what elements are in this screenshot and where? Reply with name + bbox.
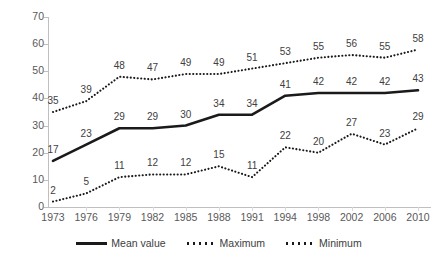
data-label: 29 (106, 111, 132, 122)
y-axis-tick-label: 50 (16, 65, 44, 76)
solid-line-swatch-icon (76, 242, 107, 245)
legend-label: Minimum (319, 237, 362, 249)
data-label: 48 (106, 60, 132, 71)
data-label: 41 (272, 79, 298, 90)
data-label: 23 (372, 128, 398, 139)
data-label: 11 (106, 160, 132, 171)
data-label: 56 (339, 38, 365, 49)
data-label: 22 (272, 130, 298, 141)
data-label: 17 (40, 144, 66, 155)
data-label: 29 (405, 111, 431, 122)
data-label: 11 (239, 160, 265, 171)
x-axis-line (48, 207, 431, 208)
data-label: 34 (206, 98, 232, 109)
data-label: 34 (239, 98, 265, 109)
y-axis-tick (44, 207, 48, 208)
data-label: 55 (372, 41, 398, 52)
data-label: 49 (206, 57, 232, 68)
line-chart: 010203040506070 197319761979198219851988… (0, 0, 438, 261)
data-label: 42 (372, 76, 398, 87)
dotted-line-swatch-icon (185, 242, 216, 245)
legend-entry-minimum[interactable]: Minimum (284, 237, 362, 249)
y-axis-tick-label: 60 (16, 38, 44, 49)
data-label: 47 (140, 62, 166, 73)
data-label: 42 (305, 76, 331, 87)
legend-label: Mean value (111, 237, 165, 249)
legend-entry-mean-value[interactable]: Mean value (76, 237, 165, 249)
data-label: 5 (73, 176, 99, 187)
chart-legend: Mean valueMaximumMinimum (0, 233, 438, 253)
data-label: 53 (272, 46, 298, 57)
data-label: 39 (73, 84, 99, 95)
legend-entry-maximum[interactable]: Maximum (185, 237, 266, 249)
data-label: 27 (339, 117, 365, 128)
data-label: 29 (140, 111, 166, 122)
data-label: 12 (140, 157, 166, 168)
data-label: 42 (339, 76, 365, 87)
data-label: 20 (305, 136, 331, 147)
data-label: 35 (40, 95, 66, 106)
data-label: 30 (173, 109, 199, 120)
data-label: 2 (40, 185, 66, 196)
data-label: 12 (173, 157, 199, 168)
data-label: 51 (239, 52, 265, 63)
dotted-line-swatch-icon (284, 242, 315, 245)
data-label: 58 (405, 33, 431, 44)
legend-label: Maximum (220, 237, 266, 249)
y-axis-tick-label: 10 (16, 174, 44, 185)
data-label: 23 (73, 128, 99, 139)
data-label: 49 (173, 57, 199, 68)
y-axis-tick-label: 30 (16, 120, 44, 131)
x-axis-tick-label: 2010 (398, 211, 438, 223)
y-axis-tick-label: 70 (16, 11, 44, 22)
data-label: 15 (206, 149, 232, 160)
data-label: 43 (405, 73, 431, 84)
data-label: 55 (305, 41, 331, 52)
